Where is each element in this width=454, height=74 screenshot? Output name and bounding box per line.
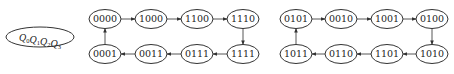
state-label: 1111 — [231, 48, 255, 59]
state-label: 1101 — [375, 48, 399, 59]
state-node-0000: 0000 — [89, 10, 121, 29]
state-diagram: Q0Q1Q2Q3 0000100011001110111101110011000… — [0, 0, 454, 74]
state-label: 0011 — [139, 48, 163, 59]
state-nodes: 0000100011001110111101110011000101010010… — [89, 10, 448, 64]
state-label: 1001 — [375, 13, 399, 24]
state-node-0101: 0101 — [280, 10, 312, 29]
state-label: 1010 — [420, 48, 444, 59]
state-label: 0010 — [329, 13, 353, 24]
state-node-1011: 1011 — [280, 45, 312, 64]
state-node-1111: 1111 — [227, 45, 259, 64]
state-label: 0101 — [284, 13, 308, 24]
state-node-0110: 0110 — [325, 45, 357, 64]
state-label: 0100 — [420, 13, 444, 24]
state-label: 0111 — [185, 48, 209, 59]
state-node-1010: 1010 — [416, 45, 448, 64]
state-node-1100: 1100 — [181, 10, 213, 29]
state-node-1000: 1000 — [135, 10, 167, 29]
state-node-0001: 0001 — [89, 45, 121, 64]
state-label: 1100 — [185, 13, 209, 24]
state-node-0010: 0010 — [325, 10, 357, 29]
state-node-1101: 1101 — [371, 45, 403, 64]
state-label: 0110 — [329, 48, 353, 59]
state-node-1110: 1110 — [227, 10, 259, 29]
state-label: 1110 — [231, 13, 255, 24]
state-label: 1000 — [139, 13, 163, 24]
state-node-1001: 1001 — [371, 10, 403, 29]
legend: Q0Q1Q2Q3 — [6, 27, 74, 50]
state-node-0011: 0011 — [135, 45, 167, 64]
state-label: 1011 — [284, 48, 308, 59]
state-label: 0001 — [93, 48, 117, 59]
state-node-0111: 0111 — [181, 45, 213, 64]
state-node-0100: 0100 — [416, 10, 448, 29]
state-label: 0000 — [93, 13, 117, 24]
